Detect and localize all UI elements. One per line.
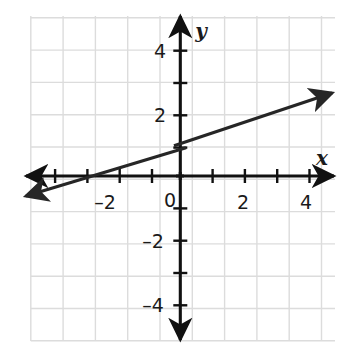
y-axis-label: y [195, 21, 207, 41]
grid-lines [31, 16, 335, 341]
y-tick-label-neg-4: –4 [142, 296, 164, 315]
y-axis [173, 16, 187, 340]
graph-canvas [0, 0, 349, 351]
y-tick-label-4: 4 [154, 42, 166, 61]
y-tick-label-neg-2: –2 [142, 232, 164, 251]
y-tick-label-2: 2 [154, 106, 166, 125]
x-tick-label-4: 4 [300, 193, 312, 212]
x-axis-label: x [316, 148, 328, 168]
x-tick-label-neg-2: –2 [94, 193, 116, 212]
x-tick-label-0: 0 [164, 191, 176, 210]
x-tick-label-2: 2 [237, 193, 249, 212]
coordinate-plane-figure: y x 4 2 –2 –4 –2 0 2 4 [0, 0, 349, 351]
